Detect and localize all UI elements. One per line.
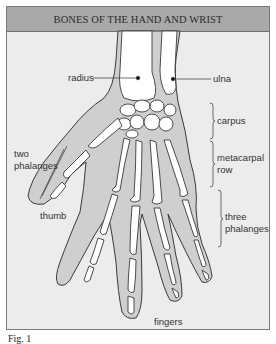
label-thumb: thumb	[40, 210, 66, 221]
label-radius: radius	[68, 72, 94, 83]
label-carpus: carpus	[217, 115, 246, 126]
label-metacarpal-row-1: metacarpal	[217, 152, 264, 163]
metacarpal-bracket	[210, 141, 215, 187]
label-two-phalanges-2: phalanges	[14, 160, 58, 171]
label-metacarpal-row-2: row	[217, 164, 232, 175]
label-two-phalanges-1: two	[14, 148, 29, 159]
forearm-bones	[120, 31, 178, 101]
radius-bone	[120, 31, 156, 101]
figure-caption: Fig. 1	[8, 333, 31, 344]
three-phalanges-bracket	[218, 190, 223, 247]
label-three-phalanges-1: three	[225, 211, 247, 222]
label-ulna: ulna	[213, 73, 231, 84]
carpus-bracket	[210, 103, 215, 139]
label-three-phalanges-2: phalanges	[225, 223, 269, 234]
ulna-bone	[160, 31, 177, 94]
label-fingers: fingers	[154, 316, 183, 327]
